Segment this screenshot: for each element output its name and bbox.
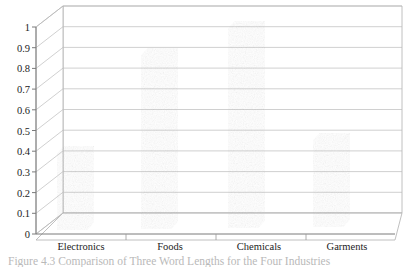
ytick-label: 0.8 bbox=[17, 63, 30, 74]
xtick-label-electronics: Electronics bbox=[57, 241, 104, 252]
bar-electronics[interactable] bbox=[57, 146, 94, 230]
chart-figure: 1 0.9 0.8 0.7 0.6 0.5 0.4 0.3 0.2 0.1 0 bbox=[0, 0, 413, 268]
bar-garments[interactable] bbox=[313, 133, 350, 227]
ytick-label: 0.9 bbox=[17, 43, 30, 54]
ytick-label: 0.1 bbox=[17, 208, 30, 219]
ytick-label: 0.3 bbox=[17, 167, 30, 178]
ytick-label: 0.5 bbox=[17, 126, 30, 137]
ytick-label: 0.7 bbox=[17, 84, 30, 95]
bar-side-face bbox=[343, 133, 350, 227]
bar-side-face bbox=[258, 21, 265, 228]
ytick-label: 1 bbox=[25, 22, 30, 33]
value-axis-labels: 1 0.9 0.8 0.7 0.6 0.5 0.4 0.3 0.2 0.1 0 bbox=[17, 22, 31, 240]
ytick-label: 0.4 bbox=[17, 146, 31, 157]
bar-chart-3d: 1 0.9 0.8 0.7 0.6 0.5 0.4 0.3 0.2 0.1 0 bbox=[0, 0, 413, 268]
bar-front-face bbox=[57, 154, 87, 230]
value-axis-ticks bbox=[32, 27, 36, 234]
bar-chemicals[interactable] bbox=[228, 21, 265, 228]
bar-front-face bbox=[141, 56, 171, 229]
bar-front-face bbox=[228, 29, 258, 228]
figure-caption: Figure 4.3 Comparison of Three Word Leng… bbox=[8, 255, 408, 267]
bar-foods[interactable] bbox=[141, 48, 178, 229]
xtick-label-garments: Garments bbox=[327, 241, 368, 252]
bar-side-face bbox=[171, 48, 178, 229]
bar-side-face bbox=[87, 146, 94, 230]
bar-front-face bbox=[313, 141, 343, 227]
ytick-label: 0.6 bbox=[17, 105, 30, 116]
category-axis-labels: Electronics Foods Chemicals Garments bbox=[57, 241, 367, 252]
ytick-label: 0.2 bbox=[17, 188, 30, 199]
xtick-label-foods: Foods bbox=[157, 241, 183, 252]
xtick-label-chemicals: Chemicals bbox=[237, 241, 281, 252]
ytick-label: 0 bbox=[25, 229, 30, 240]
